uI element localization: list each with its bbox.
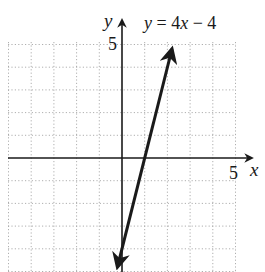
equation-y: y bbox=[142, 13, 152, 33]
equation-rest: = 4 bbox=[152, 13, 180, 33]
equation-tail: − 4 bbox=[188, 13, 216, 33]
x-tick-label-5: 5 bbox=[229, 163, 238, 183]
y-tick-label-5: 5 bbox=[108, 34, 117, 54]
equation-x: x bbox=[179, 13, 188, 33]
line-graph: y 5 x 5 y = 4x − 4 bbox=[0, 0, 265, 272]
x-axis-label: x bbox=[249, 159, 259, 180]
y-axis-label: y bbox=[102, 10, 113, 31]
equation-label: y = 4x − 4 bbox=[142, 13, 216, 33]
